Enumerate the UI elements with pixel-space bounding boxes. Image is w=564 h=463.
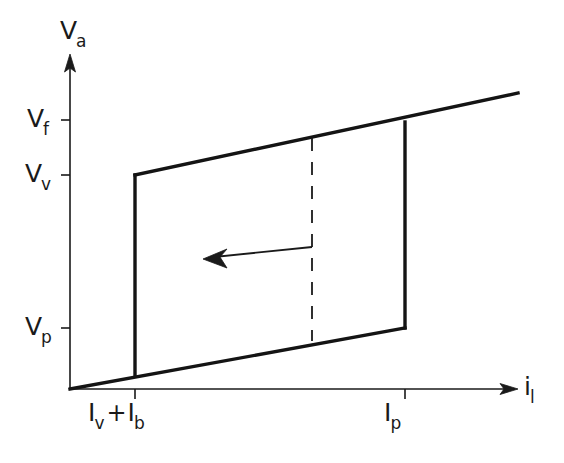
iv-label-sub: v xyxy=(94,413,104,433)
direction-arrowhead xyxy=(203,249,227,268)
x-tick-marks xyxy=(135,389,405,399)
v-p-label-base: V xyxy=(25,312,42,341)
iv-plus-ib-tick-label: Iv+Ib xyxy=(88,400,146,428)
ib-label-sub: b xyxy=(134,413,145,433)
x-axis-label-sub: l xyxy=(530,387,535,407)
v-f-label-base: V xyxy=(27,104,44,133)
y-axis-label-sub: a xyxy=(76,31,86,51)
direction-arrow-shaft xyxy=(214,247,312,257)
y-tick-marks xyxy=(61,120,70,328)
y-axis-label: Va xyxy=(60,18,88,46)
y-axis-label-base: V xyxy=(60,16,77,45)
ip-tick-label: Ip xyxy=(384,400,402,428)
v-f-tick-label: Vf xyxy=(27,106,50,134)
x-axis-label: il xyxy=(524,374,536,402)
upper-branch-path xyxy=(135,93,518,175)
leftward-direction-arrow xyxy=(203,247,312,268)
x-axis-group xyxy=(70,384,518,395)
figure-canvas xyxy=(0,0,564,463)
v-f-label-sub: f xyxy=(43,119,49,139)
v-v-label-sub: v xyxy=(41,174,51,194)
ip-label-sub: p xyxy=(390,413,401,433)
v-p-tick-label: Vp xyxy=(25,314,53,342)
hysteresis-characteristic-figure: Va Vf Vv Vp il Iv+Ib Ip xyxy=(0,0,564,463)
y-axis-group xyxy=(65,54,76,389)
plus-operator: + xyxy=(105,399,127,427)
v-p-label-sub: p xyxy=(41,327,52,347)
v-v-tick-label: Vv xyxy=(25,161,52,189)
v-v-label-base: V xyxy=(25,159,42,188)
hysteresis-loop-curve xyxy=(70,93,518,389)
lower-branch-path xyxy=(70,328,405,389)
